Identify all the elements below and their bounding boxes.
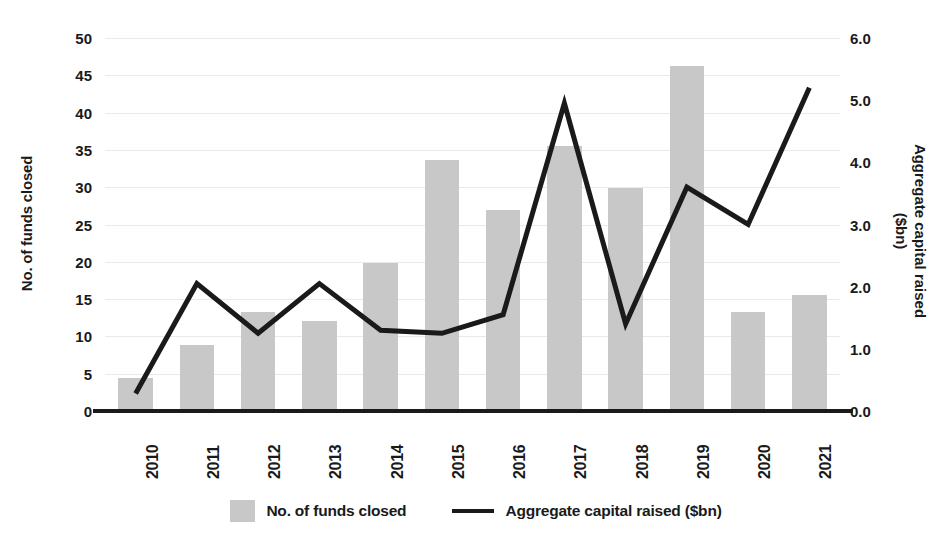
y-axis-right-tick-label: 6.0 bbox=[850, 31, 896, 46]
aggregate-capital-line bbox=[136, 88, 810, 394]
y-axis-right-tick-label: 0.0 bbox=[850, 404, 896, 419]
y-axis-right-title: Aggregate capital raised ($bn) bbox=[892, 121, 930, 341]
legend-label-aggregate-capital: Aggregate capital raised ($bn) bbox=[505, 502, 721, 520]
y-axis-left-tick-label: 35 bbox=[52, 142, 92, 157]
y-axis-left-tick-label: 45 bbox=[52, 68, 92, 83]
y-axis-left-tick-label: 20 bbox=[52, 254, 92, 269]
x-axis-label-2020: 2020 bbox=[756, 445, 774, 479]
y-axis-left-tick-label: 0 bbox=[52, 404, 92, 419]
y-axis-right-title-wrap: Aggregate capital raised ($bn) bbox=[880, 100, 940, 350]
x-axis-label-2011: 2011 bbox=[205, 445, 223, 479]
y-axis-left-tick-label: 5 bbox=[52, 366, 92, 381]
x-axis-label-2014: 2014 bbox=[389, 445, 407, 479]
y-axis-left-title: No. of funds closed bbox=[18, 114, 35, 334]
y-axis-left-tick-label: 15 bbox=[52, 292, 92, 307]
y-axis-left-tick-label: 40 bbox=[52, 105, 92, 120]
bar-swatch-icon bbox=[230, 500, 255, 522]
y-axis-left-tick-label: 50 bbox=[52, 31, 92, 46]
legend-label-funds-closed: No. of funds closed bbox=[266, 502, 406, 520]
y-axis-left-tick-label: 10 bbox=[52, 329, 92, 344]
x-axis-label-2012: 2012 bbox=[266, 445, 284, 479]
y-axis-left-tick-label: 30 bbox=[52, 180, 92, 195]
x-axis-labels: 2010201120122013201420152016201720182019… bbox=[105, 411, 840, 491]
y-axis-left-ticks: 05101520253035404550 bbox=[52, 38, 92, 411]
x-axis-label-2010: 2010 bbox=[144, 445, 162, 479]
x-axis-label-2015: 2015 bbox=[450, 445, 468, 479]
x-axis-label-2018: 2018 bbox=[634, 445, 652, 479]
chart-screenshot: No. of funds closed 05101520253035404550… bbox=[0, 0, 952, 556]
x-axis-label-2021: 2021 bbox=[817, 445, 835, 479]
x-axis-label-2013: 2013 bbox=[327, 445, 345, 479]
chart-legend: No. of funds closed Aggregate capital ra… bbox=[0, 500, 952, 522]
line-swatch-icon bbox=[452, 509, 494, 513]
x-axis-label-2019: 2019 bbox=[695, 445, 713, 479]
y-axis-left-tick-label: 25 bbox=[52, 217, 92, 232]
legend-item-aggregate-capital: Aggregate capital raised ($bn) bbox=[452, 502, 721, 520]
x-axis-label-2016: 2016 bbox=[511, 445, 529, 479]
legend-item-funds-closed: No. of funds closed bbox=[230, 500, 406, 522]
line-series bbox=[105, 38, 840, 411]
plot-area bbox=[105, 38, 840, 411]
x-axis-label-2017: 2017 bbox=[572, 445, 590, 479]
